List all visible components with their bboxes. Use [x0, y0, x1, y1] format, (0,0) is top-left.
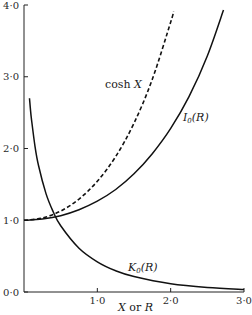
y-tick-label: 3·0: [3, 71, 19, 82]
k0-label: K0(R): [127, 261, 158, 275]
y-tick-label: 0·0: [3, 287, 19, 298]
curves: [24, 10, 244, 290]
y-tick-label: 1·0: [3, 215, 19, 226]
x-tick-label: 2·0: [163, 295, 179, 306]
x-axis-title: X or R: [117, 301, 153, 314]
cosh-curve: [24, 12, 174, 221]
x-tick-label: 1·0: [89, 295, 105, 306]
k0-curve: [30, 98, 245, 289]
y-tick-label: 2·0: [3, 143, 19, 154]
bessel-cosh-chart: 0·01·02·03·04·01·02·03·0 cosh X I0(R) K0…: [0, 0, 252, 315]
y-tick-label: 4·0: [3, 0, 19, 11]
i0-label: I0(R): [182, 111, 209, 125]
x-tick-label: 3·0: [236, 295, 252, 306]
cosh-label: cosh X: [105, 78, 143, 91]
